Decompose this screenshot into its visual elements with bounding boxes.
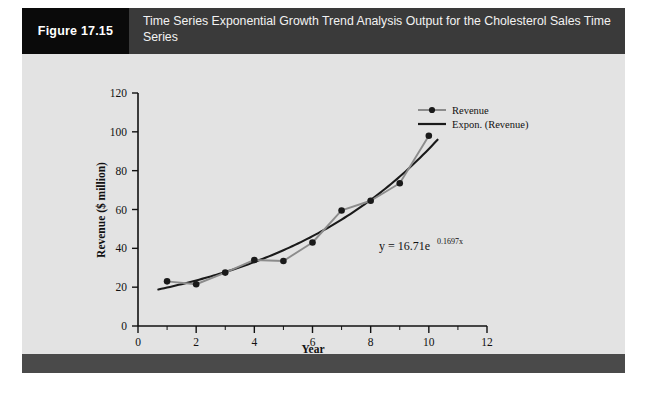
legend-swatch-revenue-marker bbox=[429, 107, 435, 113]
y-axis-title: Revenue ($ million) bbox=[95, 162, 108, 258]
revenue-data-markers bbox=[164, 132, 432, 287]
data-point-year-7 bbox=[338, 207, 345, 214]
figure-footer-bar bbox=[22, 354, 625, 373]
y-tick-label-80: 80 bbox=[116, 165, 128, 177]
y-tick-label-0: 0 bbox=[121, 320, 127, 332]
chart-axes bbox=[138, 93, 487, 326]
x-tick-label-12: 12 bbox=[481, 336, 493, 348]
figure-container: Figure 17.15 Time Series Exponential Gro… bbox=[22, 8, 625, 373]
data-point-year-10 bbox=[426, 132, 433, 139]
figure-header: Figure 17.15 Time Series Exponential Gro… bbox=[22, 8, 625, 54]
exponential-trend-chart: 020406080100120 024681012 Revenue ($ mil… bbox=[22, 54, 625, 354]
x-tick-label-8: 8 bbox=[368, 336, 374, 348]
trendline-equation-annotation: y = 16.71e 0.1697x bbox=[379, 237, 463, 253]
data-point-year-4 bbox=[251, 257, 258, 264]
y-axis-ticks: 020406080100120 bbox=[110, 87, 138, 332]
y-tick-label-20: 20 bbox=[116, 281, 128, 293]
legend-item-revenue: Revenue bbox=[418, 105, 489, 116]
data-point-year-8 bbox=[367, 197, 374, 204]
data-point-year-6 bbox=[309, 239, 316, 246]
data-point-year-5 bbox=[280, 258, 287, 265]
figure-number-label: Figure 17.15 bbox=[22, 8, 129, 54]
x-axis-title: Year bbox=[302, 343, 325, 354]
legend-item-expon-revenue: Expon. (Revenue) bbox=[418, 119, 529, 131]
x-tick-label-10: 10 bbox=[423, 336, 435, 348]
chart-legend: Revenue Expon. (Revenue) bbox=[418, 105, 529, 131]
legend-label-revenue: Revenue bbox=[452, 105, 489, 116]
y-tick-label-100: 100 bbox=[110, 126, 128, 138]
x-tick-label-0: 0 bbox=[135, 336, 141, 348]
x-tick-label-4: 4 bbox=[251, 336, 257, 348]
equation-base-text: y = 16.71e bbox=[379, 239, 430, 253]
revenue-series-line bbox=[167, 136, 429, 285]
y-tick-label-40: 40 bbox=[116, 242, 128, 254]
data-point-year-1 bbox=[164, 278, 171, 285]
equation-exponent-text: 0.1697x bbox=[437, 237, 463, 246]
data-point-year-9 bbox=[396, 180, 403, 187]
chart-panel: 020406080100120 024681012 Revenue ($ mil… bbox=[22, 54, 625, 354]
x-tick-label-2: 2 bbox=[193, 336, 199, 348]
legend-label-expon-revenue: Expon. (Revenue) bbox=[452, 119, 529, 131]
data-point-year-2 bbox=[193, 281, 200, 288]
exponential-trendline bbox=[158, 140, 437, 290]
y-tick-label-60: 60 bbox=[116, 204, 128, 216]
data-point-year-3 bbox=[222, 269, 229, 276]
y-tick-label-120: 120 bbox=[110, 87, 128, 99]
figure-title: Time Series Exponential Growth Trend Ana… bbox=[129, 8, 625, 54]
